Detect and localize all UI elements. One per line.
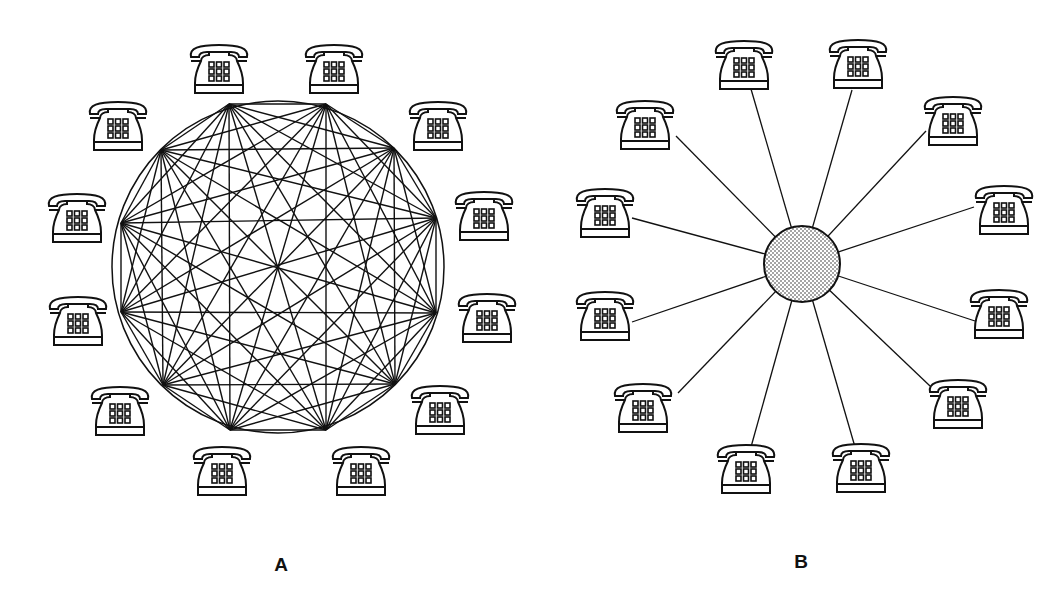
star-telephone-icon <box>716 41 773 89</box>
central-switch-hub <box>764 226 840 302</box>
mesh-link <box>161 150 163 385</box>
mesh-telephone-icon <box>459 294 516 342</box>
star-telephone-icon <box>833 444 890 492</box>
mesh-link <box>121 312 163 385</box>
mesh-telephone-icon <box>50 297 107 345</box>
mesh-telephone-icon <box>90 102 147 150</box>
mesh-telephone-icon <box>456 192 513 240</box>
star-telephone-icon <box>930 380 987 428</box>
panel-a-full-mesh <box>49 45 516 495</box>
mesh-telephone-icon <box>412 386 469 434</box>
mesh-telephone-icon <box>410 102 467 150</box>
panel-label-a: A <box>274 554 288 576</box>
network-topology-figure <box>0 0 1062 599</box>
mesh-telephone-icon <box>306 45 363 93</box>
star-telephone-icon <box>925 97 982 145</box>
star-telephone-icon <box>577 189 634 237</box>
star-telephone-icon <box>617 101 674 149</box>
mesh-telephone-icon <box>191 45 248 93</box>
mesh-link <box>326 384 395 430</box>
mesh-telephones <box>49 45 516 495</box>
star-telephone-icon <box>971 290 1028 338</box>
mesh-telephone-icon <box>92 387 149 435</box>
mesh-link <box>394 148 436 218</box>
mesh-link <box>229 104 394 148</box>
mesh-link <box>163 385 326 430</box>
star-telephone-icon <box>718 445 775 493</box>
panel-label-b: B <box>794 551 808 573</box>
mesh-link <box>394 148 395 384</box>
mesh-link <box>163 384 395 385</box>
star-telephone-icon <box>976 186 1033 234</box>
star-telephone-icon <box>615 384 672 432</box>
mesh-link <box>326 104 394 148</box>
mesh-link <box>121 104 326 223</box>
mesh-link <box>121 312 326 430</box>
mesh-telephone-icon <box>194 447 251 495</box>
panel-b-star <box>577 40 1033 493</box>
mesh-link <box>161 148 394 150</box>
mesh-connection-lines <box>121 104 436 430</box>
mesh-link <box>161 104 229 150</box>
mesh-link <box>121 223 163 385</box>
star-telephone-icon <box>830 40 887 88</box>
mesh-telephone-icon <box>333 447 390 495</box>
mesh-telephone-icon <box>49 194 106 242</box>
mesh-link <box>395 313 436 384</box>
star-telephone-icon <box>577 292 634 340</box>
